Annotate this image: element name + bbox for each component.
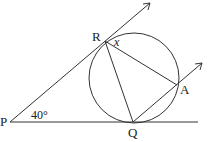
chord-RQ [105,41,133,122]
line-PR [10,3,150,122]
line-QA [133,63,202,122]
point-label-P: P [0,115,7,128]
angle-label-x: x [114,36,119,48]
point-label-A: A [180,83,189,96]
angle-label-P: 40° [31,109,48,121]
point-label-R: R [92,30,101,43]
point-label-Q: Q [128,126,137,139]
